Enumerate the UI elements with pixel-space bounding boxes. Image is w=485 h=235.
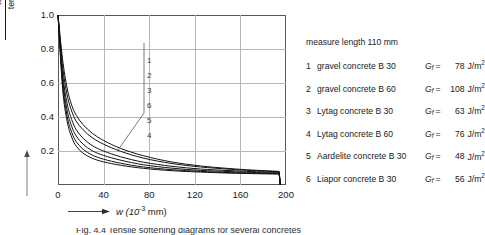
xtick-label-80: 80: [129, 190, 169, 200]
x-axis-title-text: w (10-3 mm): [116, 205, 167, 217]
legend-number-2: 2: [306, 84, 317, 94]
ytick-label-0.8: 0.8: [24, 44, 54, 54]
plot-area: [58, 15, 286, 185]
legend-number-3: 3: [306, 106, 317, 116]
legend-unit-2: J/m2: [465, 81, 485, 94]
leader-polyline: [118, 43, 144, 150]
legend-value-5: 48: [443, 151, 465, 161]
curve-index-label-1: 1: [147, 57, 155, 65]
legend-symbol-4: Gf: [425, 129, 433, 141]
legend-unit-5: J/m2: [465, 149, 485, 162]
y-axis-fraction: tensile stress tensile strength: [0, 0, 16, 40]
legend-item-6: 6 Liapor concrete B 30 Gf = 56 J/m2: [306, 171, 482, 186]
ytick-label-1.0: 1.0: [24, 10, 54, 20]
legend-label-3: Lytag concrete B 30: [317, 106, 425, 116]
legend-equals-4: =: [433, 129, 442, 139]
legend-item-5: 5 Aardelite concrete B 30 Gf = 48 J/m2: [306, 149, 482, 164]
x-axis-unit-tail: mm): [145, 206, 167, 217]
legend-item-3: 3 Lytag concrete B 30 Gf = 63 J/m2: [306, 103, 482, 118]
y-axis-arrow-icon: [22, 150, 32, 196]
y-axis-denominator: tensile strength: [6, 0, 17, 12]
legend-equals-6: =: [433, 174, 442, 184]
curve-index-label-3: 3: [147, 87, 155, 95]
measure-length-note: measure length 110 mm: [306, 37, 482, 47]
curve-index-label-6: 6: [147, 102, 155, 110]
legend-unit-4: J/m2: [465, 126, 485, 139]
curve-index-leader-line: [58, 15, 286, 185]
legend-value-1: 78: [443, 61, 465, 71]
x-axis-unit-base: w (10: [116, 206, 139, 217]
legend-unit-6: J/m2: [465, 171, 485, 184]
xtick-label-120: 120: [175, 190, 215, 200]
legend-item-4: 4 Lytag concrete B 60 Gf = 76 J/m2: [306, 126, 482, 141]
curve-index-label-2: 2: [147, 72, 155, 80]
ytick-label-0.6: 0.6: [24, 78, 54, 88]
legend-value-4: 76: [443, 129, 465, 139]
xtick-label-160: 160: [220, 190, 260, 200]
legend-number-4: 4: [306, 129, 317, 139]
legend-number-5: 5: [306, 151, 317, 161]
legend-symbol-1: Gf: [425, 61, 433, 73]
x-axis-title: w (10-3 mm): [68, 205, 167, 217]
curve-index-label-4: 4: [147, 132, 155, 140]
legend-unit-3: J/m2: [465, 103, 485, 116]
legend-label-6: Liapor concrete B 30: [317, 174, 425, 184]
legend-symbol-5: Gf: [425, 151, 433, 163]
y-axis-title: tensile stress tensile strength: [0, 0, 20, 40]
legend-item-2: 2 gravel concrete B 60 Gf = 108 J/m2: [306, 81, 482, 96]
legend-number-6: 6: [306, 174, 317, 184]
legend-unit-1: J/m2: [465, 58, 485, 71]
curve-index-label-5: 5: [147, 117, 155, 125]
legend-equals-5: =: [433, 151, 442, 161]
legend-number-1: 1: [306, 61, 317, 71]
legend-value-2: 108: [443, 84, 465, 94]
legend-value-6: 56: [443, 174, 465, 184]
xtick-label-40: 40: [84, 190, 124, 200]
legend-label-4: Lytag concrete B 60: [317, 129, 425, 139]
legend-label-1: gravel concrete B 30: [317, 61, 425, 71]
xtick-label-0: 0: [38, 190, 78, 200]
legend-symbol-6: Gf: [425, 174, 433, 186]
figure-caption-text: Fig. 4.4 Tensile softening diagrams for …: [76, 228, 301, 235]
figure-caption-clipped: Fig. 4.4 Tensile softening diagrams for …: [0, 228, 484, 235]
x-axis-arrow-icon: [68, 207, 110, 216]
ytick-label-0.4: 0.4: [24, 112, 54, 122]
legend-symbol-3: Gf: [425, 106, 433, 118]
legend-equals-2: =: [433, 84, 442, 94]
legend-label-5: Aardelite concrete B 30: [317, 151, 425, 161]
legend: measure length 110 mm 1 gravel concrete …: [306, 37, 482, 194]
legend-label-2: gravel concrete B 60: [317, 84, 425, 94]
legend-symbol-2: Gf: [425, 84, 433, 96]
xtick-label-200: 200: [266, 190, 306, 200]
legend-value-3: 63: [443, 106, 465, 116]
legend-equals-1: =: [433, 61, 442, 71]
legend-item-1: 1 gravel concrete B 30 Gf = 78 J/m2: [306, 58, 482, 73]
legend-equals-3: =: [433, 106, 442, 116]
